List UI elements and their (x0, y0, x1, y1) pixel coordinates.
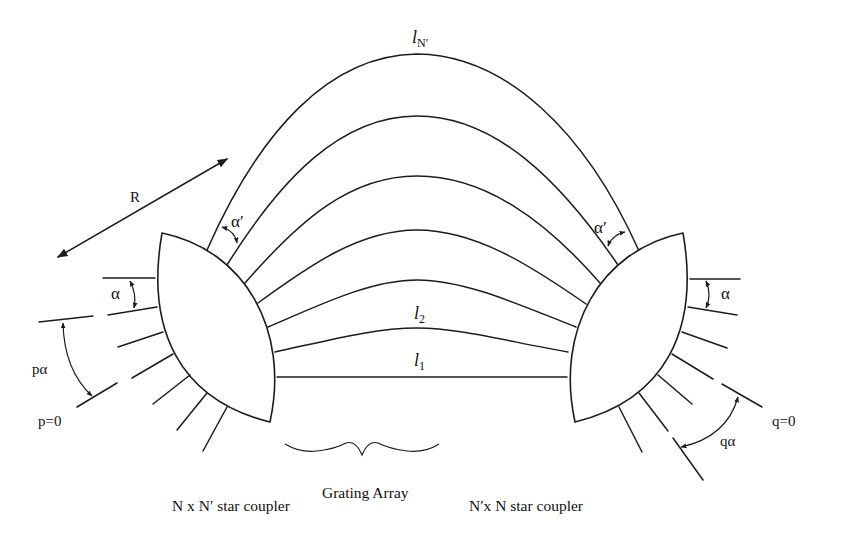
p-alpha-text: pα (32, 361, 48, 377)
output-waveguide (658, 375, 692, 404)
output-waveguide (639, 393, 668, 431)
q-alpha-reference-line (673, 438, 703, 480)
alpha-prime-right-text: α′ (594, 218, 607, 237)
alpha-prime-right-arc (608, 232, 625, 246)
input-waveguide (132, 354, 173, 378)
alpha-left-arc (130, 281, 135, 308)
length-subscript: 1 (419, 359, 425, 373)
input-waveguide (177, 393, 207, 430)
length-label-n-prime: lN′ (412, 27, 429, 50)
left-star-coupler (158, 233, 275, 422)
alpha-right-label: α (721, 284, 730, 303)
p-alpha-label: pα (32, 361, 48, 377)
input-waveguide (203, 407, 227, 451)
radius-arrow (58, 159, 227, 257)
p-zero-text: p=0 (38, 413, 61, 429)
right-star-coupler (570, 233, 687, 422)
alpha-prime-left-label: α′ (231, 212, 244, 231)
alpha-right-text: α (721, 284, 730, 303)
alpha-left-text: α (111, 284, 120, 303)
output-waveguide (688, 307, 737, 315)
array-waveguide-n-prime (207, 54, 639, 251)
p-alpha-arc (63, 323, 92, 396)
grating-array-waveguides (207, 54, 639, 377)
output-waveguide (672, 354, 713, 379)
alpha-left-label: α (111, 284, 120, 303)
length-label-2: l2 (414, 303, 425, 326)
array-waveguide-2 (275, 328, 568, 352)
grating-array-caption: Grating Array (322, 484, 409, 501)
alpha-prime-right-label: α′ (594, 218, 607, 237)
right-coupler-caption: N′x N star coupler (469, 497, 584, 514)
left-coupler-caption: N x N′ star coupler (172, 497, 291, 514)
input-waveguide (108, 307, 157, 315)
input-waveguide (153, 375, 190, 404)
alpha-right-arc (706, 281, 709, 308)
radius-label: R (130, 189, 140, 205)
length-subscript: N′ (417, 36, 429, 50)
array-waveguide-6 (227, 116, 618, 265)
length-subscript: 2 (419, 312, 425, 326)
left-coupler-caption-text: N x N′ star coupler (172, 497, 291, 514)
p-zero-label: p=0 (38, 413, 61, 429)
q-alpha-text: qα (720, 433, 736, 449)
q-zero-reference-line (722, 384, 762, 407)
grating-array-caption-text: Grating Array (322, 484, 409, 501)
length-label-1: l1 (414, 350, 425, 373)
radius-label-text: R (130, 189, 140, 205)
output-waveguide (682, 332, 727, 348)
array-waveguide-4 (258, 230, 586, 304)
q-alpha-label: qα (720, 433, 736, 449)
right-coupler-caption-text: N′x N star coupler (469, 497, 584, 514)
output-waveguide (619, 407, 642, 452)
p-alpha-reference-line (39, 316, 93, 322)
awg-diagram: R α α α′ α′ pα p=0 qα q=0 lN′ l2 l1 N x … (0, 0, 841, 543)
alpha-prime-left-text: α′ (231, 212, 244, 231)
q-zero-text: q=0 (772, 413, 795, 429)
q-zero-label: q=0 (772, 413, 795, 429)
input-waveguide (118, 332, 163, 347)
grating-array-brace (285, 443, 439, 456)
